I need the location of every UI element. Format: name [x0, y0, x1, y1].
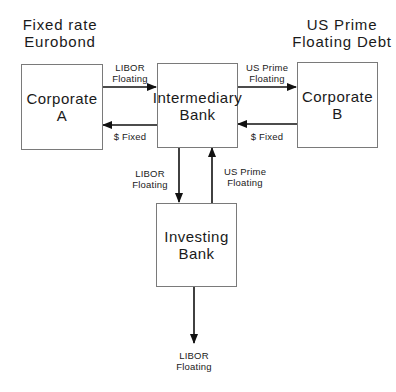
flow-arrows — [0, 0, 396, 392]
label-a-to-intermediary: LIBOR Floating — [108, 62, 152, 84]
label-intermediary-to-a: $ Fixed — [108, 131, 152, 142]
node-intermediary-bank: Intermediary Bank — [157, 63, 238, 148]
label-investing-to-intermediary: US Prime Floating — [218, 166, 272, 188]
label-intermediary-to-investing: LIBOR Floating — [128, 168, 172, 190]
label-investing-out: LIBOR Floating — [172, 350, 216, 372]
node-corporate-a: Corporate A — [21, 64, 103, 150]
label-b-to-intermediary: $ Fixed — [242, 131, 292, 142]
label-intermediary-to-b: US Prime Floating — [240, 62, 294, 84]
node-investing-bank: Investing Bank — [156, 203, 237, 287]
node-corporate-b: Corporate B — [297, 62, 378, 148]
